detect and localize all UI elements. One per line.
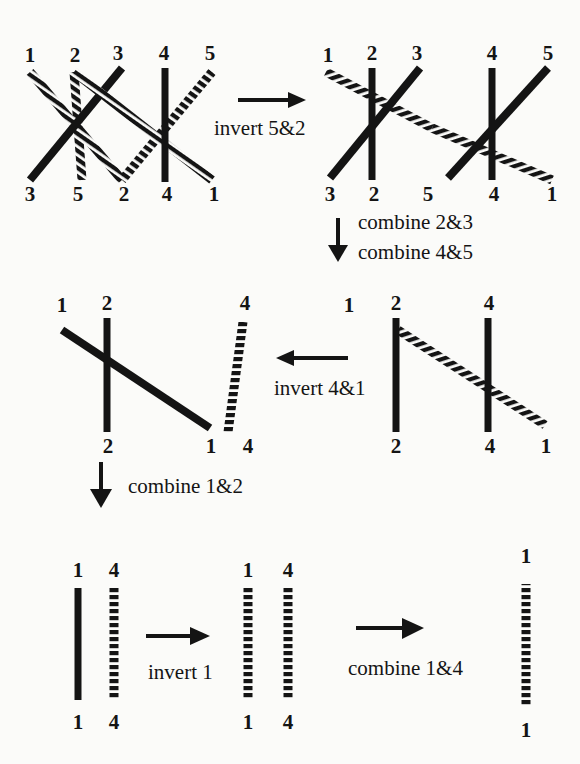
strand-label-top: 4 <box>240 293 251 314</box>
strand-label-bottom: 4 <box>485 436 496 457</box>
strand-label-top: 5 <box>205 43 216 64</box>
strand-label-bottom: 5 <box>73 184 84 205</box>
operation-label-invert-4-1: invert 4&1 <box>274 378 366 399</box>
strand-label-bottom: 4 <box>109 712 120 733</box>
panel-r2-left <box>62 318 243 432</box>
strand-label-top: 1 <box>25 45 36 66</box>
strand-label-bottom: 4 <box>489 184 500 205</box>
strand-label-bottom: 2 <box>103 436 114 457</box>
strand-label-top: 5 <box>543 43 554 64</box>
strand-hatched-r2r <box>398 330 545 425</box>
strand-label-bottom: 2 <box>119 184 130 205</box>
strand-label-top: 2 <box>70 45 81 66</box>
strand-hatched-r2l-4 <box>228 322 243 432</box>
arrow-down-combine-1-2 <box>90 462 112 508</box>
arrow-invert-5-2 <box>238 92 306 108</box>
strand-solid-r2l-1 <box>62 330 210 428</box>
panel-r3-left <box>78 588 114 700</box>
panel-r2-right <box>396 318 545 432</box>
operation-label-invert-1: invert 1 <box>148 662 213 683</box>
strand-label-bottom: 4 <box>162 184 173 205</box>
arrow-combine-1-4 <box>356 618 424 639</box>
strand-label-top: 2 <box>391 293 402 314</box>
strand-label-top: 3 <box>412 43 423 64</box>
strand-label-bottom: 1 <box>73 712 84 733</box>
operation-label-invert-5-2: invert 5&2 <box>214 118 306 139</box>
strand-hatched-3 <box>74 72 212 180</box>
strand-label-bottom: 1 <box>521 720 532 741</box>
strand-label-bottom: 1 <box>209 184 220 205</box>
strand-label-top: 2 <box>102 293 113 314</box>
strand-label-bottom: 1 <box>541 436 552 457</box>
strand-label-top: 1 <box>243 560 254 581</box>
strand-label-bottom: 2 <box>391 436 402 457</box>
arrow-invert-4-1 <box>276 350 348 366</box>
operation-label-combine-1-2: combine 1&2 <box>128 476 243 497</box>
strand-label-bottom: 1 <box>206 436 217 457</box>
strand-label-top: 2 <box>367 43 378 64</box>
strand-label-bottom: 3 <box>325 184 336 205</box>
strand-label-top: 1 <box>57 295 68 316</box>
strand-label-top: 4 <box>283 560 294 581</box>
strand-label-top: 1 <box>344 295 355 316</box>
arrow-invert-1 <box>146 627 210 645</box>
strand-label-bottom: 1 <box>243 712 254 733</box>
panel-r1-left <box>30 68 212 182</box>
strand-label-top: 4 <box>109 560 120 581</box>
strand-label-bottom: 4 <box>243 436 254 457</box>
operation-label-combine-1-4: combine 1&4 <box>348 658 463 679</box>
arrow-down-combine <box>328 218 348 262</box>
strand-label-top: 3 <box>113 43 124 64</box>
diagram-canvas: 1 2 3 4 5 3 5 2 4 1 1 2 3 4 5 3 2 5 4 1 … <box>0 0 580 764</box>
strand-label-bottom: 3 <box>25 184 36 205</box>
strand-label-top: 1 <box>521 546 532 567</box>
panel-r3-mid <box>248 588 288 700</box>
strand-label-bottom: 4 <box>283 712 294 733</box>
strand-label-top: 1 <box>323 45 334 66</box>
operation-label-combine-2-3: combine 2&3 <box>358 212 473 233</box>
strand-label-top: 1 <box>73 560 84 581</box>
strand-label-bottom: 5 <box>423 184 434 205</box>
strand-label-bottom: 1 <box>547 184 558 205</box>
panel-r1-right <box>326 68 552 180</box>
strand-label-bottom: 2 <box>369 184 380 205</box>
strand-label-top: 4 <box>484 293 495 314</box>
operation-label-combine-4-5: combine 4&5 <box>358 242 473 263</box>
strand-label-top: 4 <box>159 43 170 64</box>
strand-label-top: 4 <box>487 43 498 64</box>
